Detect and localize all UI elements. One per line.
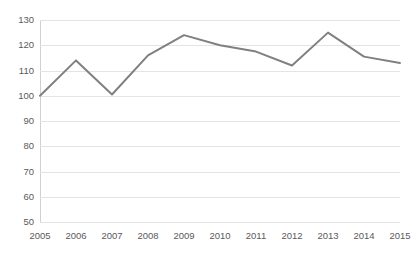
y-axis-tick-label: 110: [0, 66, 34, 76]
x-axis-tick-label: 2006: [65, 231, 86, 241]
y-axis-tick-label: 120: [0, 41, 34, 51]
gridline: [40, 222, 400, 223]
y-axis-tick-label: 70: [0, 167, 34, 177]
x-axis-tick-label: 2010: [209, 231, 230, 241]
x-axis-tick-label: 2015: [389, 231, 410, 241]
x-axis-tick-label: 2009: [173, 231, 194, 241]
x-axis-tick-label: 2014: [353, 231, 374, 241]
x-axis-tick-label: 2011: [246, 231, 266, 241]
y-axis-tick-label: 80: [0, 142, 34, 152]
x-axis-tick-label: 2012: [281, 231, 302, 241]
x-axis-tick-label: 2008: [137, 231, 158, 241]
series-line: [40, 20, 400, 222]
y-axis-tick-labels: 1301201101009080706050: [0, 0, 34, 257]
x-axis-tick-label: 2013: [317, 231, 338, 241]
y-axis-tick-label: 50: [0, 217, 34, 227]
x-axis-tick-labels: 2005200620072008200920102011201220132014…: [40, 231, 400, 249]
y-axis-tick-label: 130: [0, 15, 34, 25]
x-axis-tick-label: 2007: [101, 231, 122, 241]
y-axis-tick-label: 90: [0, 116, 34, 126]
y-axis-tick-label: 100: [0, 91, 34, 101]
plot-area: [40, 20, 400, 222]
x-axis-tick-label: 2005: [29, 231, 50, 241]
y-axis-tick-label: 60: [0, 192, 34, 202]
